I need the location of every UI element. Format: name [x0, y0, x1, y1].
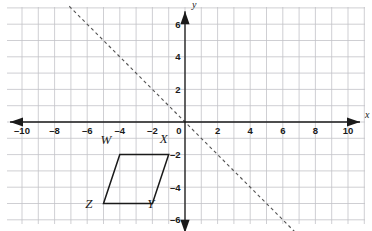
y-axis-arrow-up: [180, 11, 189, 24]
y-tick-label: –6: [170, 214, 181, 225]
y-tick-label: 4: [175, 51, 181, 62]
vertex-label-w: W: [101, 132, 113, 147]
x-tick-label: 8: [313, 125, 318, 136]
y-tick-label: 2: [175, 84, 180, 95]
x-tick-label: –8: [49, 125, 60, 136]
dashed-line-layer: [69, 6, 317, 231]
x-tick-label: 10: [343, 125, 354, 136]
y-axis-name: y: [191, 0, 197, 10]
x-tick-label: –4: [115, 125, 126, 136]
vertex-label-x: X: [159, 131, 169, 146]
origin-label: 0: [176, 125, 181, 136]
y-tick-label: –2: [170, 149, 181, 160]
grid-layer: [7, 7, 365, 224]
axes-layer: [10, 11, 360, 231]
coordinate-plane-figure: –10–8–6–4–22468100642–2–4–6 WXYZ xy: [0, 0, 372, 231]
x-axis-name: x: [364, 109, 370, 120]
graph-svg: –10–8–6–4–22468100642–2–4–6 WXYZ xy: [0, 0, 372, 231]
y-tick-label: 6: [175, 19, 180, 30]
x-tick-label: 2: [215, 125, 220, 136]
x-tick-label: –10: [14, 125, 30, 136]
y-axis-arrow-down: [180, 220, 189, 231]
x-tick-label: –6: [82, 125, 93, 136]
y-tick-label: –4: [170, 182, 181, 193]
dashed-line: [69, 6, 317, 231]
vertex-label-z: Z: [85, 196, 93, 211]
x-tick-label: 4: [248, 125, 254, 136]
x-tick-label: 6: [280, 125, 285, 136]
x-tick-label: –2: [147, 125, 158, 136]
